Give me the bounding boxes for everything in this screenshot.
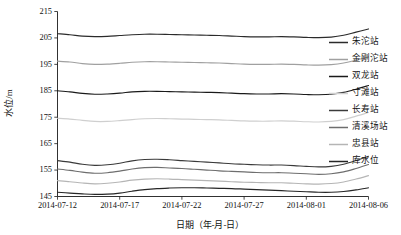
legend-label-1: 金刚沱站 (352, 52, 388, 63)
water-level-line-chart: 145155165175185195205215 2014-07-122014-… (0, 0, 401, 235)
y-tick-label: 175 (39, 113, 52, 122)
series-line-3 (58, 112, 369, 122)
x-tick-label: 2014-07-17 (100, 201, 139, 210)
legend-label-4: 长寿站 (352, 103, 379, 114)
y-tick-label: 195 (39, 60, 52, 69)
series-line-1 (58, 57, 369, 65)
legend-label-5: 清溪场站 (352, 120, 388, 131)
y-axis-tick-group: 145155165175185195205215 (39, 7, 57, 201)
y-axis-title: 水位/m (3, 89, 14, 117)
series-line-5 (58, 165, 369, 175)
legend-label-6: 忠县站 (352, 137, 379, 148)
y-tick-label: 145 (39, 192, 52, 201)
line-chart-figure: 145155165175185195205215 2014-07-122014-… (0, 0, 401, 235)
x-tick-label: 2014-07-12 (38, 201, 77, 210)
series-line-0 (58, 29, 369, 38)
y-tick-label: 155 (39, 165, 52, 174)
y-tick-label: 205 (39, 33, 52, 42)
chart-legend: 朱沱站金刚沱站双龙站寸滩站长寿站清溪场站忠县站库水位 (329, 35, 388, 165)
legend-label-0: 朱沱站 (352, 35, 379, 46)
legend-label-7: 库水位 (352, 154, 379, 165)
x-tick-label: 2014-08-06 (349, 201, 388, 210)
y-tick-label: 165 (39, 139, 52, 148)
series-line-group (58, 29, 369, 194)
y-tick-label: 215 (39, 7, 52, 16)
x-axis-tick-group: 2014-07-122014-07-172014-07-222014-07-27… (38, 197, 388, 210)
x-tick-label: 2014-08-01 (287, 201, 326, 210)
series-line-6 (58, 176, 369, 184)
legend-label-2: 双龙站 (352, 69, 379, 80)
x-tick-label: 2014-07-22 (162, 201, 201, 210)
x-axis-title: 日期（年-月-日） (176, 219, 245, 230)
y-tick-label: 185 (39, 86, 52, 95)
series-line-7 (58, 188, 369, 195)
x-tick-label: 2014-07-27 (225, 201, 264, 210)
series-line-2 (58, 86, 369, 95)
series-line-4 (58, 156, 369, 167)
legend-label-3: 寸滩站 (352, 86, 379, 97)
